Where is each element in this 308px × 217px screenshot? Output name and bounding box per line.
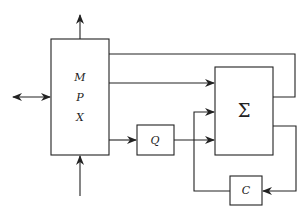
c-label: C [242, 184, 251, 197]
mpx-to-sum-right-line [109, 54, 295, 97]
mpx-label-m: M [73, 71, 86, 84]
c-to-sum-arrow [194, 112, 230, 191]
sum-to-c-arrow [263, 126, 296, 191]
sum-label: Σ [238, 100, 251, 121]
mpx-label-x: X [75, 111, 85, 124]
q-label: Q [150, 134, 159, 147]
block-diagram: M P X Q Σ C [0, 0, 308, 217]
mpx-label-p: P [75, 91, 84, 104]
